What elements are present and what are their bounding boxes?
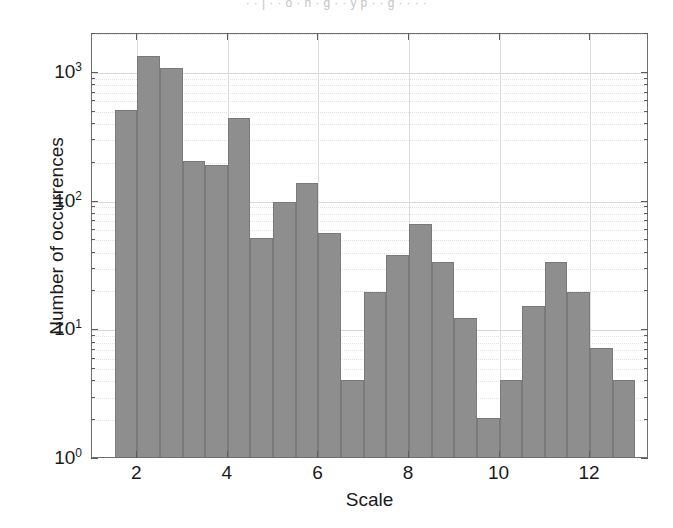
y-axis-tick-minor-right [644,342,648,343]
histogram-bar [160,68,183,457]
x-axis-tick-major-top [136,33,137,40]
y-axis-tick-mantissa: 10 [54,447,75,468]
plot-area [91,33,648,458]
y-axis-title: Number of occurrences [46,86,68,386]
y-axis-tick-exponent: 1 [75,317,82,331]
histogram-bar [386,255,409,457]
y-axis-tick-minor [91,335,95,336]
y-axis-tick-minor-right [644,33,648,34]
histogram-bar [115,110,138,457]
histogram-bar [183,161,206,457]
histogram-bar [250,238,273,457]
y-axis-tick-minor-right [644,78,648,79]
y-axis-tick-minor-right [644,380,648,381]
histogram-figure: 100101102103 24681012 Number of occurren… [0,0,673,528]
y-axis-tick-minor-right [644,123,648,124]
x-axis-tick-major [408,451,409,458]
y-axis-tick-minor [91,349,95,350]
y-axis-tick-minor [91,206,95,207]
y-axis-tick-minor-right [644,100,648,101]
histogram-bar [500,380,523,458]
y-axis-tick-major-right [641,201,648,202]
y-axis-tick-minor [91,342,95,343]
y-axis-tick-minor [91,78,95,79]
y-axis-tick-minor-right [644,239,648,240]
gridline-horizontal-minor [92,34,647,35]
y-axis-tick-minor-right [644,268,648,269]
x-axis-title: Scale [91,489,648,511]
x-axis-tick-major-top [227,33,228,40]
y-axis-tick-exponent: 2 [75,188,82,202]
histogram-bar [205,165,228,457]
y-axis-tick-major-right [641,329,648,330]
y-axis-tick-minor-right [644,139,648,140]
y-axis-tick-major [91,72,98,73]
histogram-bar [137,56,160,457]
x-axis-tick-major-top [408,33,409,40]
histogram-bar [454,318,477,457]
histogram-bar [477,418,500,457]
y-axis-tick-minor [91,252,95,253]
y-axis-tick-minor [91,239,95,240]
y-axis-tick-minor-right [644,290,648,291]
y-axis-tick-minor [91,268,95,269]
x-axis-tick-major [589,451,590,458]
y-axis-tick-exponent: 0 [75,446,82,460]
histogram-bar [273,202,296,457]
y-axis-tick-minor-right [644,229,648,230]
histogram-bar [567,292,590,457]
y-axis-tick-minor [91,380,95,381]
y-axis-tick-label: 103 [36,61,82,83]
histogram-bar [432,262,455,458]
y-axis-tick-minor-right [644,162,648,163]
histogram-bar [545,262,568,458]
y-axis-tick-major-right [641,458,648,459]
y-axis-tick-minor [91,290,95,291]
y-axis-tick-minor-right [644,84,648,85]
histogram-bar [341,380,364,458]
y-axis-tick-minor [91,123,95,124]
y-axis-tick-minor-right [644,368,648,369]
x-axis-tick-major [317,451,318,458]
y-axis-tick-minor-right [644,220,648,221]
y-axis-tick-minor [91,92,95,93]
histogram-bar [590,348,613,457]
y-axis-tick-minor-right [644,419,648,420]
y-axis-tick-minor [91,368,95,369]
y-axis-tick-exponent: 3 [75,59,82,73]
y-axis-tick-minor [91,419,95,420]
x-axis-tick-major-top [499,33,500,40]
x-axis-tick-label: 4 [222,462,233,484]
y-axis-tick-minor [91,220,95,221]
y-axis-tick-minor [91,397,95,398]
y-axis-tick-minor [91,358,95,359]
y-axis-tick-minor [91,229,95,230]
y-axis-tick-minor-right [644,397,648,398]
y-axis-tick-minor [91,213,95,214]
x-axis-tick-label: 10 [488,462,509,484]
x-axis-tick-major-top [317,33,318,40]
y-axis-tick-minor [91,84,95,85]
histogram-bar [296,183,319,457]
y-axis-tick-minor-right [644,335,648,336]
histogram-bar [364,292,387,457]
y-axis-tick-minor-right [644,92,648,93]
y-axis-tick-major [91,458,98,459]
x-axis-tick-label: 8 [403,462,414,484]
y-axis-tick-minor [91,33,95,34]
y-axis-tick-minor-right [644,206,648,207]
y-axis-tick-major [91,201,98,202]
y-axis-tick-minor-right [644,358,648,359]
histogram-bar [318,233,341,457]
x-axis-tick-major-top [589,33,590,40]
y-axis-tick-minor-right [644,349,648,350]
y-axis-tick-minor [91,111,95,112]
y-axis-tick-mantissa: 10 [54,61,75,82]
x-axis-tick-major [227,451,228,458]
histogram-bar [228,118,251,457]
y-axis-tick-minor [91,162,95,163]
histogram-bar [522,306,545,457]
x-axis-tick-label: 6 [312,462,323,484]
y-axis-tick-minor-right [644,111,648,112]
y-axis-tick-minor-right [644,213,648,214]
